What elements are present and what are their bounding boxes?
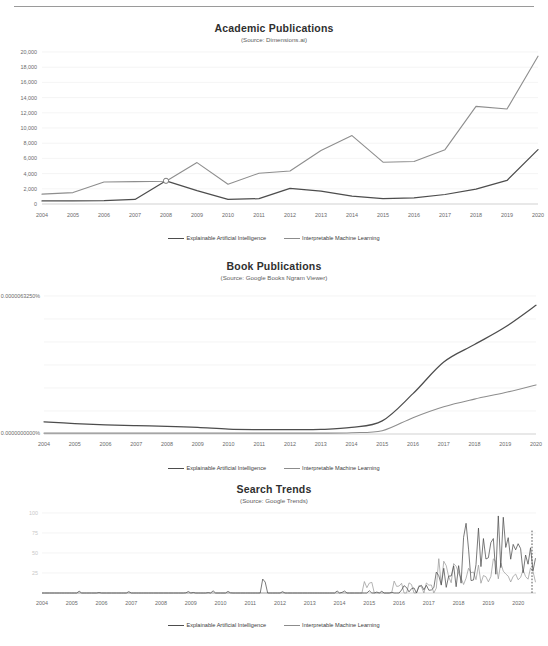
- chart2-svg: 0.0000063250%0.0000000000%20042005200620…: [0, 282, 548, 464]
- chart1-xtick: 2007: [129, 212, 141, 218]
- chart3-title: Search Trends: [0, 483, 548, 496]
- chart1-svg: 02,0004,0006,0008,00010,00012,00014,0001…: [0, 44, 548, 234]
- legend-label-xai: Explainable Artificial Intelligence: [186, 621, 266, 629]
- chart2-xtick: 2006: [100, 441, 112, 447]
- chart2-source: (Source: Google Books Ngram Viewer): [0, 273, 548, 282]
- chart3-xtick: 2019: [482, 600, 494, 606]
- legend-label-iml: Interpretable Machine Learning: [302, 621, 379, 629]
- chart3-series-xai: [42, 516, 536, 593]
- legend-item-xai: Explainable Artificial Intelligence: [168, 234, 266, 242]
- legend-line-swatch-light-icon: [284, 625, 300, 626]
- chart1-xtick: 2013: [315, 212, 327, 218]
- chart1-ytick: 4,000: [24, 171, 38, 177]
- chart1-ytick: 0: [34, 201, 37, 207]
- chart1-title: Academic Publications: [0, 22, 548, 35]
- chart1-ytick: 14,000: [21, 95, 38, 101]
- chart3-xtick: 2005: [66, 600, 78, 606]
- chart3-source: (Source: Google Trends): [0, 496, 548, 505]
- chart2-legend: Explainable Artificial Intelligence Inte…: [0, 464, 548, 472]
- chart1-plot: 02,0004,0006,0008,00010,00012,00014,0001…: [0, 44, 548, 234]
- chart2-xtick: 2020: [530, 441, 542, 447]
- chart-book-publications: Book Publications (Source: Google Books …: [0, 260, 548, 472]
- chart3-ytick: 100: [29, 510, 38, 516]
- chart2-title: Book Publications: [0, 260, 548, 273]
- chart1-series-xai: [42, 150, 538, 201]
- chart2-xtick: 2010: [223, 441, 235, 447]
- chart1-ytick: 6,000: [24, 155, 38, 161]
- chart3-legend: Explainable Artificial Intelligence Inte…: [0, 621, 548, 629]
- chart3-xtick: 2018: [453, 600, 465, 606]
- legend-item-xai: Explainable Artificial Intelligence: [168, 621, 266, 629]
- chart2-ytick-max: 0.0000063250%: [1, 293, 40, 299]
- chart1-ytick: 20,000: [21, 49, 38, 55]
- chart3-xtick: 2008: [155, 600, 167, 606]
- chart3-xtick: 2014: [334, 600, 346, 606]
- chart2-plot: 0.0000063250%0.0000000000%20042005200620…: [0, 282, 548, 464]
- legend-label-xai: Explainable Artificial Intelligence: [186, 464, 266, 472]
- legend-line-swatch-light-icon: [284, 238, 300, 239]
- chart3-plot: 2550751002004200520062007200820092010201…: [0, 505, 548, 621]
- chart2-xtick: 2011: [253, 441, 265, 447]
- chart2-xtick: 2014: [346, 441, 358, 447]
- legend-line-swatch-dark-icon: [168, 238, 184, 239]
- chart3-xtick: 2016: [393, 600, 405, 606]
- chart2-xtick: 2005: [69, 441, 81, 447]
- chart3-xtick: 2020: [512, 600, 524, 606]
- chart1-ytick: 8,000: [24, 140, 38, 146]
- legend-label-iml: Interpretable Machine Learning: [302, 464, 379, 472]
- chart2-xtick: 2008: [161, 441, 173, 447]
- chart1-xtick: 2008: [160, 212, 172, 218]
- header-rule: [14, 6, 534, 7]
- chart1-xtick: 2006: [98, 212, 110, 218]
- chart2-xtick: 2017: [438, 441, 450, 447]
- chart3-xtick: 2006: [96, 600, 108, 606]
- chart-academic-publications: Academic Publications (Source: Dimension…: [0, 22, 548, 242]
- chart1-xtick: 2017: [439, 212, 451, 218]
- chart2-xtick: 2012: [284, 441, 296, 447]
- chart3-xtick: 2011: [245, 600, 257, 606]
- chart1-xtick: 2015: [377, 212, 389, 218]
- legend-item-iml: Interpretable Machine Learning: [284, 464, 379, 472]
- chart2-series-iml: [44, 385, 536, 433]
- chart3-xtick: 2013: [304, 600, 316, 606]
- chart1-xtick: 2019: [501, 212, 513, 218]
- chart1-ytick: 2,000: [24, 186, 38, 192]
- chart3-ytick: 50: [32, 550, 38, 556]
- chart3-xtick: 2009: [185, 600, 197, 606]
- chart1-xtick: 2005: [67, 212, 79, 218]
- chart3-xtick: 2015: [363, 600, 375, 606]
- chart2-xtick: 2004: [38, 441, 50, 447]
- chart2-xtick: 2018: [469, 441, 481, 447]
- chart2-xtick: 2013: [315, 441, 327, 447]
- chart1-xtick: 2016: [408, 212, 420, 218]
- chart3-xtick: 2004: [36, 600, 48, 606]
- chart3-xtick: 2017: [423, 600, 435, 606]
- chart2-xtick: 2009: [192, 441, 204, 447]
- chart1-ytick: 18,000: [21, 64, 38, 70]
- chart1-xtick: 2012: [284, 212, 296, 218]
- chart1-legend: Explainable Artificial Intelligence Inte…: [0, 234, 548, 242]
- chart3-svg: 2550751002004200520062007200820092010201…: [0, 505, 548, 621]
- chart1-xtick: 2018: [470, 212, 482, 218]
- chart3-ytick: 25: [32, 570, 38, 576]
- chart1-xtick: 2014: [346, 212, 358, 218]
- chart1-xtick: 2020: [532, 212, 544, 218]
- chart2-xtick: 2016: [407, 441, 419, 447]
- chart3-xtick: 2007: [125, 600, 137, 606]
- chart1-xtick: 2010: [222, 212, 234, 218]
- legend-line-swatch-dark-icon: [168, 625, 184, 626]
- legend-item-xai: Explainable Artificial Intelligence: [168, 464, 266, 472]
- chart1-source: (Source: Dimensions.ai): [0, 35, 548, 44]
- legend-line-swatch-dark-icon: [168, 468, 184, 469]
- chart2-ytick-min: 0.0000000000%: [1, 430, 40, 436]
- legend-label-iml: Interpretable Machine Learning: [302, 234, 379, 242]
- chart1-xtick: 2004: [36, 212, 48, 218]
- chart3-xtick: 2012: [274, 600, 286, 606]
- chart2-xtick: 2015: [376, 441, 388, 447]
- chart3-ytick: 75: [32, 530, 38, 536]
- chart2-xtick: 2007: [130, 441, 142, 447]
- chart1-xtick: 2009: [191, 212, 203, 218]
- legend-item-iml: Interpretable Machine Learning: [284, 234, 379, 242]
- legend-line-swatch-light-icon: [284, 468, 300, 469]
- legend-label-xai: Explainable Artificial Intelligence: [186, 234, 266, 242]
